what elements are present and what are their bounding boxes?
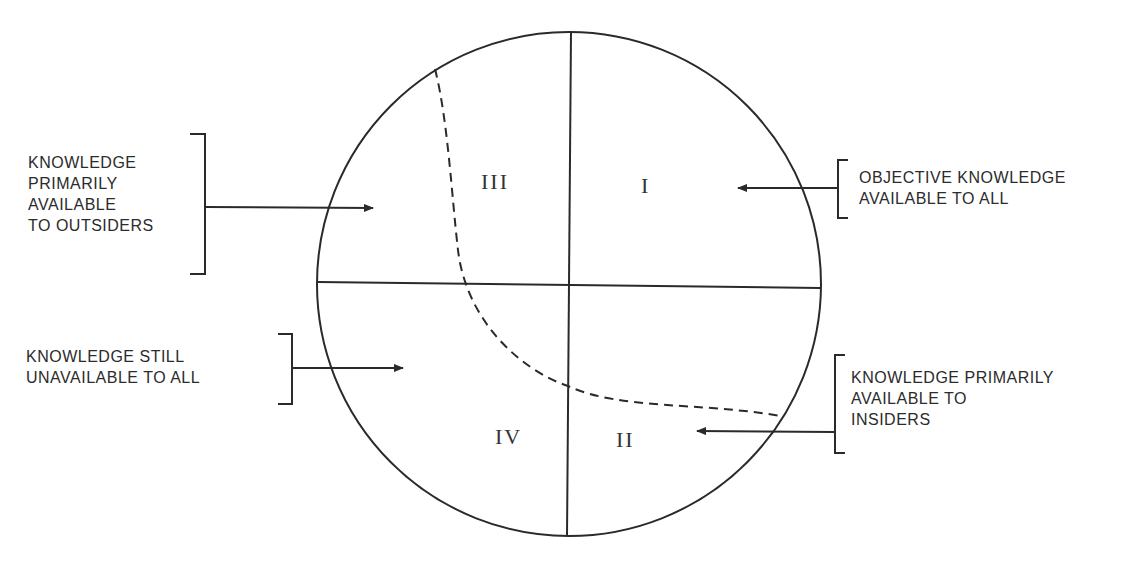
label-unavailable-line-1: KNOWLEDGE STILL: [26, 346, 200, 367]
label-outsiders: KNOWLEDGE PRIMARILY AVAILABLE TO OUTSIDE…: [28, 152, 154, 236]
label-unavailable-line-2: UNAVAILABLE TO ALL: [26, 367, 200, 388]
label-insiders-line-2: AVAILABLE TO: [851, 388, 1054, 409]
arrow-insiders: [697, 431, 835, 432]
label-outsiders-line-2: PRIMARILY: [28, 173, 154, 194]
bracket-unavailable: [278, 334, 292, 404]
arrow-outsiders: [205, 207, 373, 208]
label-unavailable: KNOWLEDGE STILL UNAVAILABLE TO ALL: [26, 346, 200, 388]
quadrant-label-iv: IV: [495, 424, 522, 450]
label-insiders-line-1: KNOWLEDGE PRIMARILY: [851, 367, 1054, 388]
label-outsiders-line-4: TO OUTSIDERS: [28, 215, 154, 236]
quadrant-label-i: I: [641, 173, 650, 199]
quadrant-label-ii: II: [616, 427, 635, 453]
label-outsiders-line-3: AVAILABLE: [28, 194, 154, 215]
label-insiders: KNOWLEDGE PRIMARILY AVAILABLE TO INSIDER…: [851, 367, 1054, 430]
label-objective-line-2: AVAILABLE TO ALL: [859, 188, 1066, 209]
quadrant-label-iii: III: [481, 169, 509, 195]
knowledge-quadrant-diagram: [0, 0, 1139, 566]
dashed-boundary-curve: [435, 69, 781, 416]
label-outsiders-line-1: KNOWLEDGE: [28, 152, 154, 173]
label-objective-line-1: OBJECTIVE KNOWLEDGE: [859, 167, 1066, 188]
bracket-insiders: [835, 355, 845, 453]
label-insiders-line-3: INSIDERS: [851, 409, 1054, 430]
bracket-objective: [838, 160, 848, 218]
bracket-outsiders: [190, 134, 205, 274]
label-objective: OBJECTIVE KNOWLEDGE AVAILABLE TO ALL: [859, 167, 1066, 209]
